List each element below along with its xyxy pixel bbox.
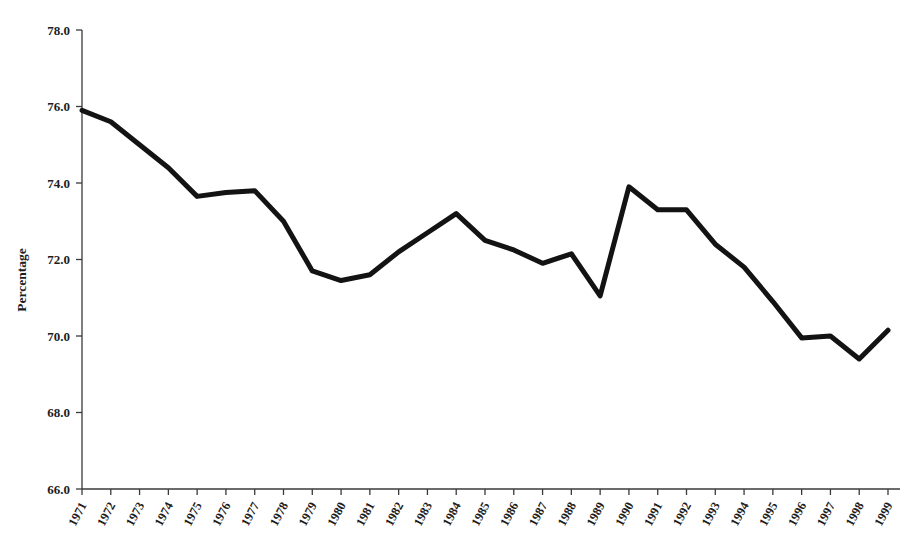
y-tick-label: 78.0 <box>47 23 70 38</box>
y-axis-title: Percentage <box>14 248 29 311</box>
y-tick-label: 70.0 <box>47 329 70 344</box>
y-tick-label: 66.0 <box>47 482 70 497</box>
y-tick-label: 74.0 <box>47 176 70 191</box>
y-tick-label: 76.0 <box>47 99 70 114</box>
chart-background <box>0 0 921 551</box>
y-tick-label: 72.0 <box>47 252 70 267</box>
line-chart: 66.068.070.072.074.076.078.0 Percentage … <box>0 0 921 551</box>
chart-canvas: 66.068.070.072.074.076.078.0 Percentage … <box>0 0 921 551</box>
y-tick-label: 68.0 <box>47 405 70 420</box>
